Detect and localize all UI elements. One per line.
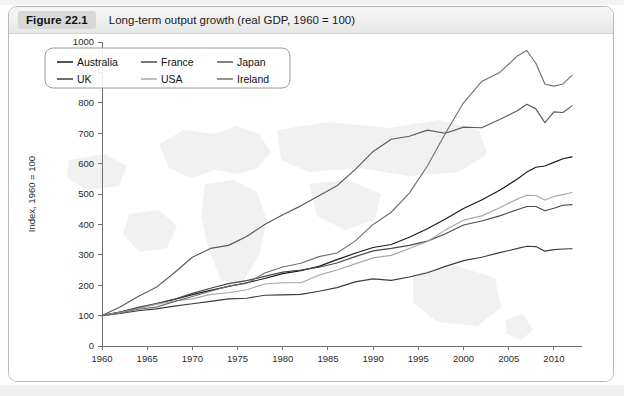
line-chart: 0100200300400500600700800900100019601965…	[9, 34, 613, 381]
page-edge-top	[0, 0, 624, 5]
x-tick-label: 1985	[317, 353, 338, 364]
x-tick-label: 1990	[363, 353, 384, 364]
x-tick-label: 2000	[453, 353, 474, 364]
y-tick-label: 400	[78, 219, 94, 230]
x-tick-label: 1980	[272, 353, 293, 364]
y-tick-label: 800	[78, 97, 94, 108]
chart-plot-area: 0100200300400500600700800900100019601965…	[9, 34, 613, 381]
legend-label-ireland: Ireland	[237, 73, 269, 85]
chart-legend: AustraliaFranceJapanUKUSAIreland	[45, 48, 290, 88]
y-tick-label: 100	[78, 310, 94, 321]
x-tick-label: 1960	[91, 353, 112, 364]
x-tick-label: 1995	[408, 353, 429, 364]
figure-caption-text: Long-term output growth (real GDP, 1960 …	[109, 14, 355, 26]
y-tick-label: 1000	[73, 36, 94, 47]
figure-root: Figure 22.1 Long-term output growth (rea…	[0, 0, 624, 396]
x-tick-label: 1970	[182, 353, 203, 364]
legend-label-uk: UK	[77, 73, 92, 85]
y-tick-label: 600	[78, 158, 94, 169]
y-tick-label: 0	[89, 340, 94, 351]
x-tick-label: 1965	[137, 353, 158, 364]
legend-label-japan: Japan	[237, 56, 266, 68]
legend-label-france: France	[161, 56, 194, 68]
y-tick-label: 700	[78, 128, 94, 139]
y-tick-label: 500	[78, 188, 94, 199]
legend-label-usa: USA	[161, 73, 183, 85]
figure-card: Figure 22.1 Long-term output growth (rea…	[8, 6, 614, 382]
series-line-australia	[102, 157, 572, 316]
x-tick-label: 2005	[498, 353, 519, 364]
y-tick-label: 200	[78, 280, 94, 291]
x-tick-label: 2010	[543, 353, 564, 364]
figure-caption-bar: Figure 22.1 Long-term output growth (rea…	[9, 7, 613, 34]
x-tick-label: 1975	[227, 353, 248, 364]
figure-number-badge: Figure 22.1	[18, 11, 96, 29]
page-edge-bottom	[0, 385, 624, 396]
y-tick-label: 300	[78, 249, 94, 260]
series-line-uk	[102, 246, 572, 315]
legend-label-australia: Australia	[77, 56, 118, 68]
y-axis-title: Index, 1960 = 100	[26, 156, 37, 232]
world-map-watermark	[67, 120, 533, 340]
